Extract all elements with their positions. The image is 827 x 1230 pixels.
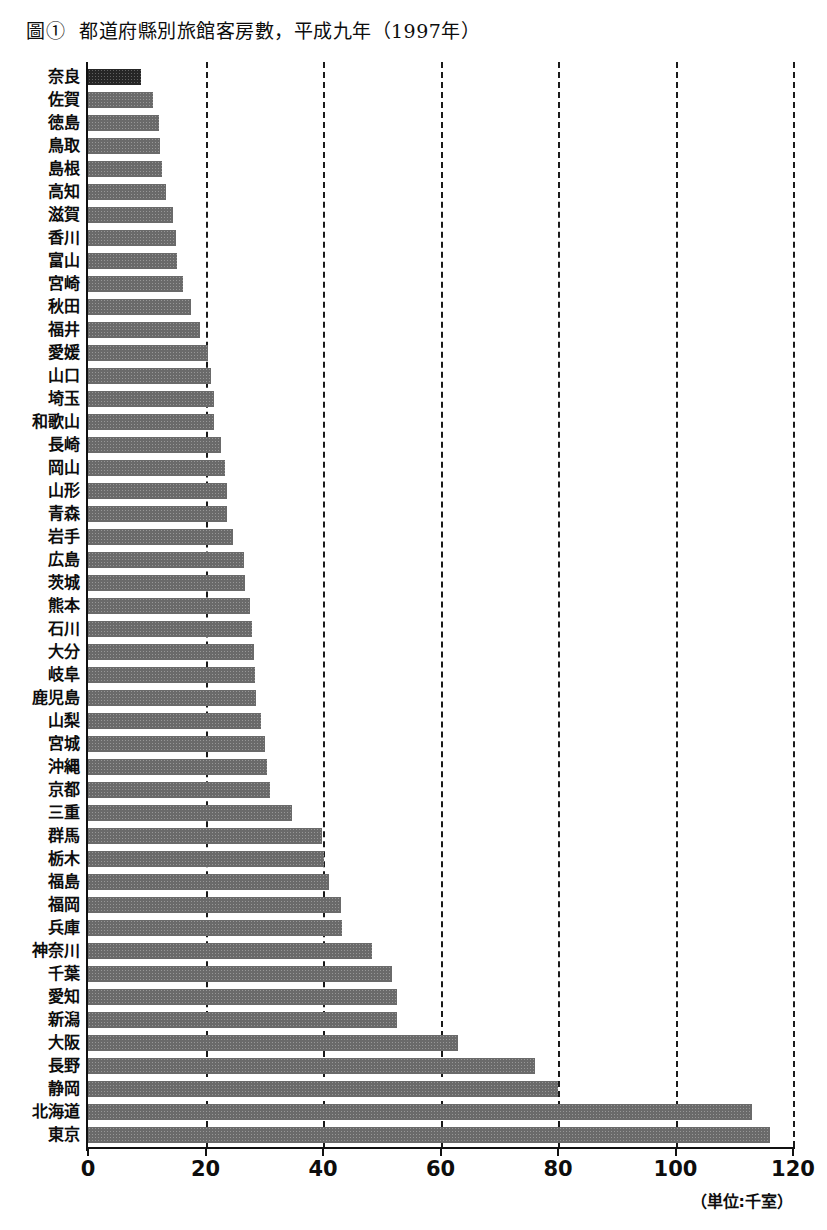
category-label: 大分 — [48, 641, 80, 664]
category-label: 神奈川 — [32, 940, 80, 963]
category-label: 茨城 — [48, 572, 80, 595]
category-label: 鹿児島 — [32, 687, 80, 710]
bar-row: 三重 — [88, 802, 793, 825]
category-label: 新潟 — [48, 1009, 80, 1032]
x-axis-tick-label: 80 — [543, 1157, 572, 1181]
category-label: 岡山 — [48, 457, 80, 480]
gridline-120 — [793, 62, 795, 1147]
bar — [88, 391, 214, 407]
bar — [88, 230, 176, 246]
bar-row: 香川 — [88, 227, 793, 250]
bar-row: 茨城 — [88, 572, 793, 595]
bar — [88, 138, 160, 154]
bar — [88, 805, 292, 821]
bar — [88, 621, 252, 637]
category-label: 山口 — [48, 365, 80, 388]
category-label: 山梨 — [48, 710, 80, 733]
bar — [88, 667, 255, 683]
category-label: 徳島 — [48, 112, 80, 135]
bar-row: 山口 — [88, 365, 793, 388]
bar-row: 千葉 — [88, 963, 793, 986]
bar-row: 山梨 — [88, 710, 793, 733]
bar — [88, 161, 162, 177]
category-label: 愛媛 — [48, 342, 80, 365]
bar-row: 沖縄 — [88, 756, 793, 779]
bar — [88, 897, 341, 913]
category-label: 秋田 — [48, 296, 80, 319]
bar-row: 兵庫 — [88, 917, 793, 940]
category-label: 島根 — [48, 158, 80, 181]
bar-row: 鹿児島 — [88, 687, 793, 710]
figure-container: 圖①都道府縣別旅館客房數，平成九年（1997年） 奈良佐賀徳島鳥取島根高知滋賀香… — [0, 0, 827, 1230]
bar — [88, 1081, 558, 1097]
bar-row: 宮崎 — [88, 273, 793, 296]
bar — [88, 1127, 770, 1143]
bar-row: 熊本 — [88, 595, 793, 618]
x-axis-tick-label: 120 — [771, 1157, 815, 1181]
category-label: 鳥取 — [48, 135, 80, 158]
bar-row: 長崎 — [88, 434, 793, 457]
bar — [88, 1035, 458, 1051]
bar-row: 福岡 — [88, 894, 793, 917]
category-label: 福岡 — [48, 894, 80, 917]
x-axis-tick — [557, 1149, 559, 1156]
category-label: 大阪 — [48, 1032, 80, 1055]
category-label: 広島 — [48, 549, 80, 572]
bar-row: 大分 — [88, 641, 793, 664]
category-label: 群馬 — [48, 825, 80, 848]
bar — [88, 437, 221, 453]
figure-number: 圖① — [26, 20, 65, 42]
category-label: 福島 — [48, 871, 80, 894]
category-label: 静岡 — [48, 1078, 80, 1101]
bar-row: 佐賀 — [88, 89, 793, 112]
category-label: 三重 — [48, 802, 80, 825]
bar — [88, 345, 208, 361]
bar-row: 埼玉 — [88, 388, 793, 411]
category-label: 熊本 — [48, 595, 80, 618]
bar — [88, 966, 392, 982]
figure-title-text: 都道府縣別旅館客房數，平成九年（1997年） — [79, 20, 480, 42]
category-label: 沖縄 — [48, 756, 80, 779]
bar — [88, 575, 245, 591]
bar-row: 富山 — [88, 250, 793, 273]
bar — [88, 322, 200, 338]
bar — [88, 276, 183, 292]
category-label: 富山 — [48, 250, 80, 273]
bar-row: 群馬 — [88, 825, 793, 848]
bar-row: 東京 — [88, 1124, 793, 1147]
bar-row: 岡山 — [88, 457, 793, 480]
bar-row: 福井 — [88, 319, 793, 342]
category-label: 岐阜 — [48, 664, 80, 687]
bar — [88, 207, 173, 223]
bar-row: 秋田 — [88, 296, 793, 319]
bar-row: 宮城 — [88, 733, 793, 756]
bar — [88, 184, 166, 200]
x-axis-tick-label: 60 — [426, 1157, 455, 1181]
bar — [88, 1058, 535, 1074]
bar — [88, 1012, 397, 1028]
category-label: 千葉 — [48, 963, 80, 986]
bar — [88, 460, 225, 476]
bar-row: 神奈川 — [88, 940, 793, 963]
bar — [88, 736, 265, 752]
category-label: 石川 — [48, 618, 80, 641]
bar — [88, 368, 211, 384]
bar-row: 高知 — [88, 181, 793, 204]
x-axis-tick — [792, 1149, 794, 1156]
bar-row: 徳島 — [88, 112, 793, 135]
bar — [88, 1104, 752, 1120]
x-axis-tick-label: 40 — [308, 1157, 337, 1181]
bar — [88, 253, 177, 269]
category-label: 北海道 — [32, 1101, 80, 1124]
category-label: 福井 — [48, 319, 80, 342]
category-label: 宮崎 — [48, 273, 80, 296]
bar — [88, 92, 153, 108]
x-axis-tick-label: 0 — [81, 1157, 96, 1181]
bar-row: 鳥取 — [88, 135, 793, 158]
bar-row: 長野 — [88, 1055, 793, 1078]
bar-row: 愛知 — [88, 986, 793, 1009]
bar-row: 岐阜 — [88, 664, 793, 687]
x-axis-tick-label: 100 — [654, 1157, 698, 1181]
bar — [88, 115, 159, 131]
bar — [88, 506, 227, 522]
